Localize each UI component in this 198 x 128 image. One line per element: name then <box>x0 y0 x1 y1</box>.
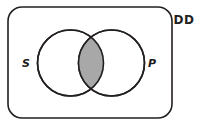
venn-diagram-figure: S P DD <box>0 0 198 128</box>
venn-diagram-canvas: S P DD <box>0 0 198 128</box>
universe-label: DD <box>174 13 195 27</box>
set-label-p: P <box>148 57 156 70</box>
set-label-s: S <box>22 57 30 70</box>
